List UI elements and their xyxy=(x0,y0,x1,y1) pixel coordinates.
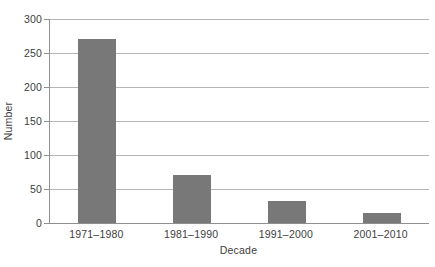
gridline-y-300 xyxy=(50,19,429,20)
bar-1971–1980 xyxy=(78,39,116,223)
plot-area xyxy=(49,19,429,224)
y-tick-label-0: 0 xyxy=(10,217,42,229)
x-category-label-1991–2000: 1991–2000 xyxy=(241,228,331,241)
x-category-label-1971–1980: 1971–1980 xyxy=(51,228,141,241)
y-tick-mark-150 xyxy=(44,121,49,122)
bar-chart: Number Decade 0501001502002503001971–198… xyxy=(0,0,435,267)
x-axis-title: Decade xyxy=(49,244,428,256)
y-tick-label-300: 300 xyxy=(10,13,42,25)
y-tick-label-250: 250 xyxy=(10,47,42,59)
y-tick-mark-250 xyxy=(44,53,49,54)
y-tick-mark-50 xyxy=(44,189,49,190)
y-tick-label-100: 100 xyxy=(10,149,42,161)
y-tick-label-50: 50 xyxy=(10,183,42,195)
x-category-label-2001–2010: 2001–2010 xyxy=(336,228,426,241)
bar-2001–2010 xyxy=(363,213,401,223)
y-tick-mark-100 xyxy=(44,155,49,156)
y-tick-mark-300 xyxy=(44,19,49,20)
y-tick-mark-0 xyxy=(44,223,49,224)
y-tick-label-200: 200 xyxy=(10,81,42,93)
bar-1991–2000 xyxy=(268,201,306,223)
x-category-label-1981–1990: 1981–1990 xyxy=(146,228,236,241)
y-tick-mark-200 xyxy=(44,87,49,88)
y-tick-label-150: 150 xyxy=(10,115,42,127)
bar-1981–1990 xyxy=(173,175,211,223)
